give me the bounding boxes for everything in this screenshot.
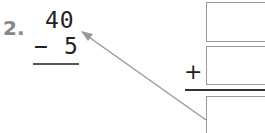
- arrow-icon: [0, 0, 265, 133]
